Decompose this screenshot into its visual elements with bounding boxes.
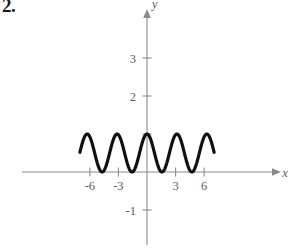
coordinate-plane: -6 -3 3 6 3 2 -1 x y [0, 0, 291, 252]
y-tick-label-2: 2 [130, 90, 136, 104]
arrow-right-icon [272, 168, 281, 176]
x-tick-label-6: 6 [201, 179, 207, 193]
y-axis-label: y [150, 0, 158, 11]
x-tick-label--6: -6 [85, 179, 95, 193]
y-tick-label-3: 3 [130, 52, 136, 66]
y-tick-label--1: -1 [126, 204, 136, 218]
graph-figure: -6 -3 3 6 3 2 -1 x y [0, 0, 291, 252]
x-tick-label--3: -3 [113, 179, 123, 193]
x-tick-label-3: 3 [172, 179, 178, 193]
x-axis-label: x [281, 166, 288, 180]
arrow-up-icon [143, 9, 151, 18]
